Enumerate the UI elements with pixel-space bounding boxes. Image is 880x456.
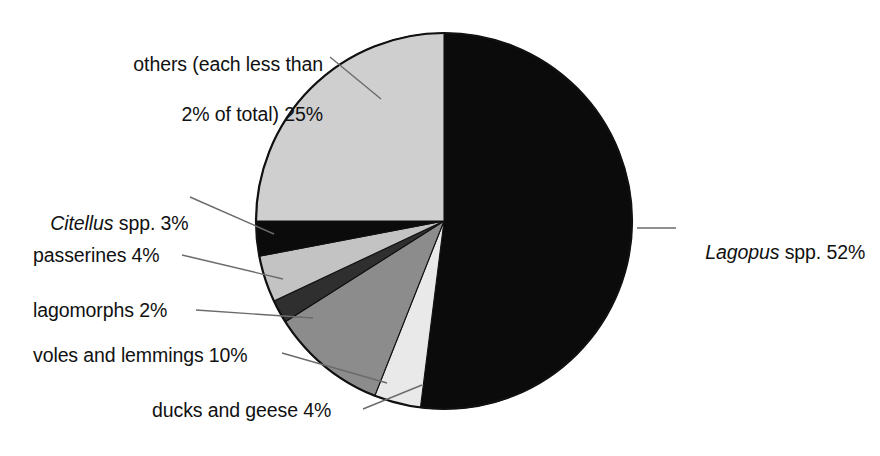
slice-label-lagopus: Lagopus spp. 52% — [684, 215, 865, 290]
slice-label-lagopus-species: Lagopus — [705, 241, 779, 263]
slice-label-voles-and-lemmings: voles and lemmings 10% — [33, 343, 248, 368]
pie-slice-lagopus[interactable] — [420, 33, 632, 409]
slice-label-lagomorphs: lagomorphs 2% — [33, 298, 167, 323]
slice-label-lagopus-value: spp. 52% — [779, 241, 865, 263]
slice-label-others-line1: others (each less than — [133, 53, 323, 75]
slice-label-others-line2: 2% of total) 25% — [182, 103, 323, 125]
slice-label-citellus-value: spp. 3% — [113, 212, 188, 234]
slice-label-ducks-and-geese: ducks and geese 4% — [152, 398, 331, 423]
slice-label-passerines: passerines 4% — [33, 243, 160, 268]
slice-label-others: others (each less than 2% of total) 25% — [101, 27, 323, 152]
slice-label-citellus-species: Citellus — [50, 212, 113, 234]
pie-chart-figure: others (each less than 2% of total) 25% … — [0, 0, 880, 456]
